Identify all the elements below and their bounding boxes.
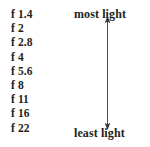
list-item: f 11 bbox=[11, 92, 71, 106]
list-item: f 2 bbox=[11, 21, 71, 35]
list-item: f 1.4 bbox=[11, 7, 71, 21]
list-item: f 8 bbox=[11, 78, 71, 92]
list-item: f 4 bbox=[11, 50, 71, 64]
list-item: f 22 bbox=[11, 121, 71, 135]
aperture-scale-diagram: f 1.4 f 2 f 2.8 f 4 f 5.6 f 8 f 11 f 16 … bbox=[0, 0, 150, 147]
double-headed-vertical-arrow-icon bbox=[99, 16, 116, 130]
list-item: f 2.8 bbox=[11, 35, 71, 49]
least-light-label: least light bbox=[74, 126, 150, 141]
list-item: f 16 bbox=[11, 106, 71, 120]
list-item: f 5.6 bbox=[11, 64, 71, 78]
fstop-list: f 1.4 f 2 f 2.8 f 4 f 5.6 f 8 f 11 f 16 … bbox=[11, 7, 71, 135]
